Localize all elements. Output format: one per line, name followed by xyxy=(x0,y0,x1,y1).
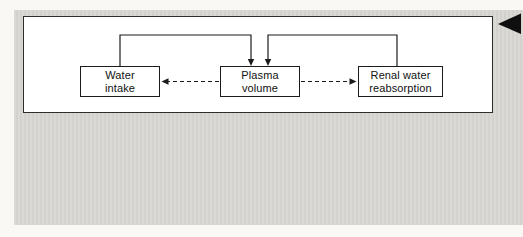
node-renal-label-line1: Renal water xyxy=(371,69,431,82)
node-plasma-volume-label-line2: volume xyxy=(242,82,278,95)
node-water-intake-label-line2: intake xyxy=(105,82,135,95)
node-plasma-volume: Plasma volume xyxy=(220,66,300,97)
node-water-intake: Water intake xyxy=(80,66,160,97)
node-renal-water-reabsorption: Renal water reabsorption xyxy=(358,66,443,97)
node-renal-label-line2: reabsorption xyxy=(369,82,431,95)
diagram-panel xyxy=(23,16,493,113)
node-plasma-volume-label-line1: Plasma xyxy=(241,69,278,82)
figure-canvas: Water intake Plasma volume Renal water r… xyxy=(0,0,523,237)
node-water-intake-label-line1: Water xyxy=(105,69,134,82)
